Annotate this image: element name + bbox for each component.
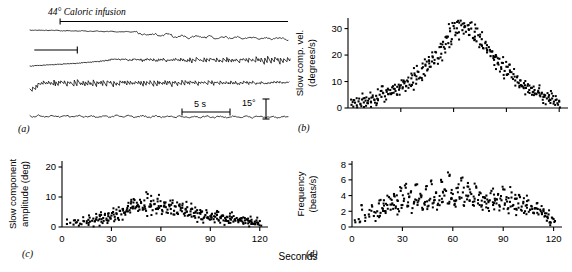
data-point <box>442 191 444 193</box>
data-point <box>457 20 459 22</box>
data-point <box>546 220 548 222</box>
data-point <box>398 210 400 212</box>
trace-3 <box>30 80 289 92</box>
data-point <box>371 204 373 206</box>
trace-4 <box>30 115 288 119</box>
data-point <box>526 200 528 202</box>
data-point <box>372 94 374 96</box>
data-point <box>500 195 502 197</box>
data-point <box>174 205 176 207</box>
data-point <box>434 59 436 61</box>
data-point <box>75 222 77 224</box>
x-tick-label-d: 0 <box>349 233 354 244</box>
trace-2 <box>30 56 290 66</box>
data-point <box>99 218 101 220</box>
data-point <box>257 223 259 225</box>
data-point <box>528 89 530 91</box>
data-point <box>507 66 509 68</box>
data-point <box>448 46 450 48</box>
data-point <box>551 97 553 99</box>
x-tick-label-c: 90 <box>205 233 216 244</box>
data-point <box>504 204 506 206</box>
data-point <box>468 28 470 30</box>
data-point <box>144 206 146 208</box>
data-point <box>433 199 435 201</box>
data-point <box>95 219 97 221</box>
data-point <box>517 202 519 204</box>
data-point <box>179 205 181 207</box>
data-point <box>515 214 517 216</box>
data-point <box>150 204 152 206</box>
data-point <box>464 201 466 203</box>
data-point <box>490 55 492 57</box>
data-point <box>548 94 550 96</box>
data-point <box>485 41 487 43</box>
data-point <box>399 94 401 96</box>
data-point <box>416 183 418 185</box>
data-point <box>538 87 540 89</box>
data-point <box>544 215 546 217</box>
data-point <box>133 198 135 200</box>
data-point <box>108 212 110 214</box>
data-point <box>113 214 115 216</box>
data-point <box>522 86 524 88</box>
data-point <box>422 208 424 210</box>
data-point <box>411 74 413 76</box>
data-point <box>505 61 507 63</box>
data-point <box>387 208 389 210</box>
data-point <box>416 65 418 67</box>
data-point <box>548 96 550 98</box>
data-point <box>356 106 358 108</box>
data-point <box>498 64 500 66</box>
data-point <box>545 212 547 214</box>
data-point <box>497 62 499 64</box>
data-point <box>163 204 165 206</box>
data-point <box>198 216 200 218</box>
data-point <box>428 205 430 207</box>
data-point <box>122 219 124 221</box>
data-point <box>428 62 430 64</box>
data-point <box>170 212 172 214</box>
data-point <box>454 203 456 205</box>
data-point <box>474 38 476 40</box>
data-point <box>496 198 498 200</box>
data-point <box>461 29 463 31</box>
data-point <box>508 212 510 214</box>
data-point <box>521 206 523 208</box>
data-point <box>380 90 382 92</box>
data-point <box>142 209 144 211</box>
data-point <box>512 78 514 80</box>
data-point <box>439 204 441 206</box>
data-point <box>424 75 426 77</box>
data-point <box>124 214 126 216</box>
data-point <box>89 217 91 219</box>
data-point <box>122 210 124 212</box>
data-point <box>394 90 396 92</box>
data-point <box>403 200 405 202</box>
data-point <box>229 213 231 215</box>
data-point <box>444 189 446 191</box>
data-point <box>172 199 174 201</box>
data-point <box>473 196 475 198</box>
data-point <box>189 210 191 212</box>
data-point <box>155 212 157 214</box>
data-point <box>254 222 256 224</box>
data-point <box>407 80 409 82</box>
data-point <box>256 217 258 219</box>
data-point <box>413 202 415 204</box>
data-point <box>384 210 386 212</box>
data-point <box>390 209 392 211</box>
data-point <box>474 31 476 33</box>
data-point <box>157 208 159 210</box>
data-point <box>91 220 93 222</box>
data-point <box>440 46 442 48</box>
data-point <box>553 218 555 220</box>
data-point <box>511 205 513 207</box>
data-point <box>377 88 379 90</box>
data-point <box>89 221 91 223</box>
data-point <box>120 213 122 215</box>
data-point <box>418 78 420 80</box>
data-point <box>364 220 366 222</box>
data-point <box>407 193 409 195</box>
data-point <box>194 217 196 219</box>
